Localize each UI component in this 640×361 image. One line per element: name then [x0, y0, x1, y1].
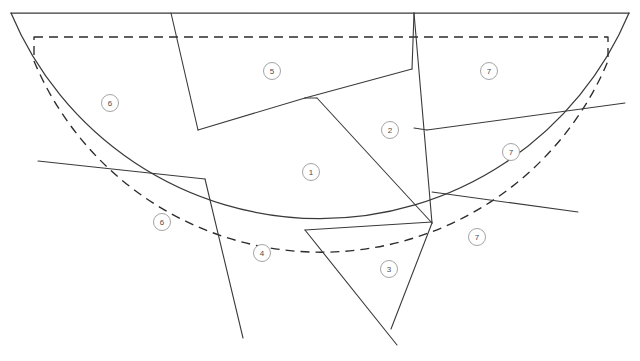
region-label-7-top: 7: [481, 63, 498, 80]
region-label-3: 3: [381, 261, 398, 278]
canvas-background: [0, 0, 640, 361]
region-label-7-middle: 7: [503, 144, 520, 161]
region-label-7-bottom: 7: [469, 229, 486, 246]
region-label-text-2: 2: [388, 126, 393, 135]
region-label-6-lower: 6: [154, 214, 171, 231]
region-label-text-7-middle: 7: [509, 148, 514, 157]
region-label-text-5: 5: [270, 67, 275, 76]
region-label-text-6-lower: 6: [160, 218, 165, 227]
region-label-text-4: 4: [260, 249, 265, 258]
partition-diagram-svg: 1 2 3 4 5 6: [0, 0, 640, 361]
region-label-text-7-top: 7: [487, 67, 492, 76]
region-label-4: 4: [254, 245, 271, 262]
region-label-text-6-upper: 6: [108, 99, 113, 108]
diagram-root: 1 2 3 4 5 6: [0, 0, 640, 361]
region-label-1: 1: [303, 164, 320, 181]
region-label-text-1: 1: [309, 168, 314, 177]
region-label-2: 2: [382, 122, 399, 139]
region-label-5: 5: [264, 63, 281, 80]
region-label-text-3: 3: [387, 265, 392, 274]
region-label-text-7-bottom: 7: [475, 233, 480, 242]
region-label-6-upper: 6: [102, 95, 119, 112]
